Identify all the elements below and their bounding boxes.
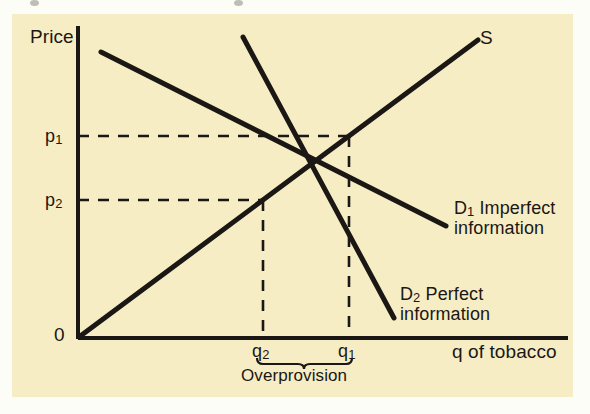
demand-curve-d1-label-sub: 1 xyxy=(467,204,474,219)
x-axis-label: q of tobacco xyxy=(452,341,557,362)
origin-label: 0 xyxy=(54,324,65,345)
quantity-tick-q2-sub: 2 xyxy=(262,347,269,362)
price-tick-p2-base: p xyxy=(45,190,55,210)
demand-curve-d1-label-line1: Imperfect xyxy=(474,198,555,218)
supply-curve-label: S xyxy=(480,27,493,48)
price-tick-p2-sub: 2 xyxy=(55,196,62,211)
price-tick-p1-base: p xyxy=(45,126,55,146)
price-tick-p1-sub: 1 xyxy=(55,132,62,147)
overprovision-label: Overprovision xyxy=(241,366,347,385)
quantity-tick-q2: q2 xyxy=(252,341,269,361)
quantity-tick-q2-base: q xyxy=(252,341,262,361)
demand-curve-d2 xyxy=(243,37,394,318)
demand-curve-d2-label-sub: 2 xyxy=(413,290,420,305)
figure-screenshot: Price S p1 p2 0 q2 q1 Overprovision q of… xyxy=(0,0,590,414)
y-axis-label: Price xyxy=(30,26,74,47)
price-tick-p1: p1 xyxy=(45,126,62,146)
demand-curve-d1-label: D1 Imperfectinformation xyxy=(454,198,555,238)
price-tick-p2: p2 xyxy=(45,190,62,210)
demand-curve-d1-label-base: D xyxy=(454,198,467,218)
quantity-tick-q1: q1 xyxy=(338,341,355,361)
quantity-tick-q1-sub: 1 xyxy=(348,347,355,362)
demand-curve-d1-label-line2: information xyxy=(454,218,544,238)
demand-curve-d2-label-line1: Perfect xyxy=(420,284,483,304)
demand-curve-d1 xyxy=(101,52,446,226)
demand-curve-d2-label: D2 Perfectinformation xyxy=(400,284,490,324)
demand-curve-d2-label-base: D xyxy=(400,284,413,304)
demand-curve-d2-label-line2: information xyxy=(400,304,490,324)
quantity-tick-q1-base: q xyxy=(338,341,348,361)
